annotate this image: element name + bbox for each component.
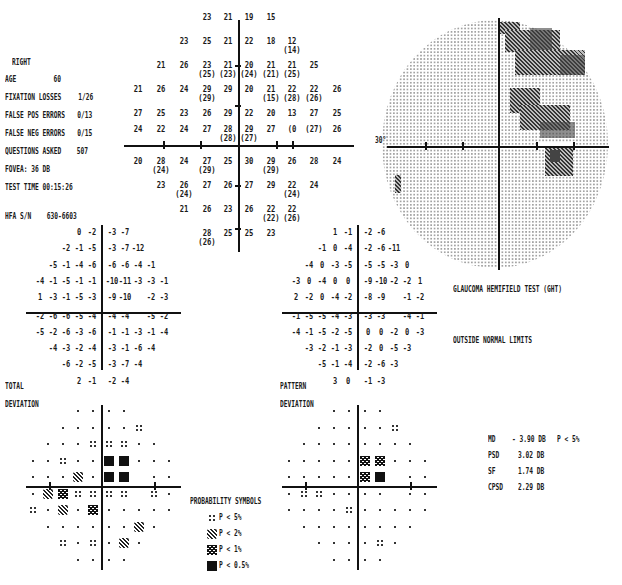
normal-point-icon [149,522,159,532]
threshold-cell: 13 [283,109,301,118]
md-label: MD [488,435,496,444]
p5-symbol-icon [344,505,353,514]
threshold-cell: 21(15) [262,85,280,103]
threshold-cell: 24 [175,157,193,166]
normal-point-icon [104,522,114,532]
threshold-cell: 27 [240,181,258,190]
threshold-cell: 24 [328,157,346,166]
total-deviation-cell: -1 [157,277,173,286]
threshold-cell: (27) [305,125,323,134]
p05-symbol-icon [104,472,114,482]
false-pos-label: FALSE POS ERRORS [5,111,65,120]
normal-point-icon [299,505,309,515]
threshold-cell: 22 [152,125,170,134]
threshold-cell: 28(26) [198,229,216,247]
threshold-cell: 20 [129,157,147,166]
normal-point-icon [43,439,53,449]
false-pos-value: 0/13 [77,111,92,120]
pattern-deviation-cell: -5 [341,328,357,337]
threshold-value: 18 [267,36,276,46]
p05-symbol-icon [207,561,217,571]
hfa-sn-row: HFA S/N 630-6603 [5,212,77,221]
threshold-value: 21 [157,60,166,70]
normal-point-icon [360,555,370,565]
false-neg-row: FALSE NEG ERRORS 0/15 [5,129,92,138]
normal-point-icon [88,406,98,416]
deviation-label: DEVIATION [280,400,314,409]
threshold-cell: 27 [262,125,280,134]
total-deviation-cell: -10 [117,293,133,302]
normal-point-icon [390,456,400,466]
normal-point-icon [299,456,309,466]
normal-point-icon [43,472,53,482]
pattern-deviation-cell: 0 [341,277,357,286]
pattern-deviation-cell: -3 [373,312,389,321]
normal-point-icon [134,505,144,515]
threshold-value: 28 [310,156,319,166]
threshold-value: 21 [224,36,233,46]
threshold-cell: 23 [152,181,170,190]
normal-point-icon [375,522,385,532]
threshold-repeat-value: (28) [283,94,301,103]
threshold-cell: 20 [240,85,258,94]
p5-symbol-icon [119,439,128,448]
total-deviation-cell: -4 [143,344,159,353]
threshold-repeat-value: (26) [283,214,301,223]
normal-point-icon [344,406,354,416]
threshold-cell: 22(22) [262,205,280,223]
threshold-cell: 20(24) [240,61,258,79]
threshold-cell: 21(21) [262,61,280,79]
threshold-repeat-value: (24) [283,190,301,199]
fovea-label: FOVEA: [5,165,28,174]
normal-point-icon [28,489,38,499]
normal-point-icon [329,489,339,499]
axis-tick [536,142,538,150]
pattern-deviation-cell: -3 [341,312,357,321]
threshold-cell: 21(23) [219,61,237,79]
threshold-cell: 15 [262,13,280,22]
pattern-deviation-cell: -1 [413,312,429,321]
threshold-value: 25 [203,36,212,46]
normal-point-icon [314,522,324,532]
cpsd-label: CPSD [488,483,503,492]
p5-symbol-icon [207,513,216,522]
legend-title: PROBABILITY SYMBOLS [190,497,261,506]
threshold-value: 27 [267,124,276,134]
age-row: AGE 60 [5,75,61,84]
threshold-cell: 26 [198,205,216,214]
threshold-cell: 24 [175,85,193,94]
threshold-repeat-value: (23) [219,70,237,79]
normal-point-icon [329,456,339,466]
threshold-value: 23 [203,12,212,22]
threshold-value: 27 [245,180,254,190]
threshold-cell: 28 [305,157,323,166]
normal-point-icon [284,472,294,482]
threshold-cell: 25 [328,109,346,118]
normal-point-icon [329,522,339,532]
normal-point-icon [73,555,83,565]
threshold-cell: 22(24) [283,181,301,199]
deviation-label: DEVIATION [5,400,39,409]
normal-point-icon [73,439,83,449]
threshold-cell: 25 [198,37,216,46]
threshold-repeat-value: (24) [175,190,193,199]
md-value: - 3.90 DB [512,435,546,444]
false-pos-row: FALSE POS ERRORS 0/13 [5,111,92,120]
pattern-deviation-cell: -3 [373,377,389,386]
legend-item-label: P < 1% [219,545,242,554]
normal-point-icon [149,472,159,482]
normal-point-icon [58,423,68,433]
normal-point-icon [28,472,38,482]
threshold-cell: 22 [240,37,258,46]
threshold-cell: 23 [198,13,216,22]
pattern-deviation-cell: -9 [373,293,389,302]
threshold-value: 26 [245,204,254,214]
threshold-value: 23 [180,108,189,118]
p5-symbol-icon [134,423,143,432]
axis-tick [235,105,241,107]
normal-point-icon [329,439,339,449]
defect-region [560,55,585,75]
total-label: TOTAL [5,382,24,391]
normal-point-icon [149,439,159,449]
test-time-label: TEST TIME [5,183,39,192]
